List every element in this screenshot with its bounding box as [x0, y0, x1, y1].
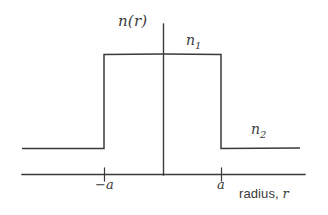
y-axis-label: n(r) [118, 14, 147, 29]
n1-label-subscript: 1 [195, 40, 201, 51]
n2-label-subscript: 2 [260, 129, 266, 140]
tick-label-positive-a: a [217, 178, 225, 191]
refractive-index-profile-figure: n(r) n1 n2 −a a radius, r [0, 0, 328, 215]
tick-label-negative-a: −a [95, 178, 114, 191]
x-axis-label: radius, r [239, 187, 289, 200]
n2-label-base: n [251, 121, 260, 137]
plot-canvas [0, 0, 328, 215]
x-axis-label-variable: r [282, 186, 288, 201]
x-axis-label-text: radius, [239, 186, 279, 201]
n1-level-label: n1 [186, 33, 201, 51]
n1-label-base: n [186, 32, 195, 48]
n2-level-label: n2 [251, 122, 266, 140]
